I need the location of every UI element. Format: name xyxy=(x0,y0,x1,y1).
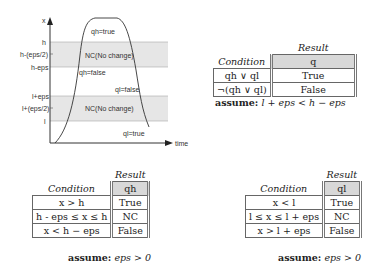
x-axis-label: time xyxy=(175,140,188,147)
q-truth-table: Result Condition q qh ∨ ql True ¬(qh ∨ q… xyxy=(213,41,357,97)
qh-false-label: qh=false xyxy=(79,69,106,77)
q-truth-table-block: Result Condition q qh ∨ ql True ¬(qh ∨ q… xyxy=(213,41,357,97)
condition-cell: x < h − eps xyxy=(33,224,112,238)
upper-band-label: NC(No change) xyxy=(85,52,134,60)
ql-truth-table: Result Condition ql x < l True l ≤ x ≤ l… xyxy=(245,168,362,238)
result-cell: False xyxy=(112,224,149,238)
ql-true-label: ql=true xyxy=(123,130,145,138)
condition-cell: x > h xyxy=(33,196,112,210)
signal-curve xyxy=(55,18,149,143)
result-cell: True xyxy=(112,196,149,210)
ql-truth-table-block: Result Condition ql x < l True l ≤ x ≤ l… xyxy=(245,168,362,238)
result-title: Result xyxy=(112,168,149,182)
assume-expression: eps > 0 xyxy=(114,252,151,263)
result-header: q xyxy=(271,55,355,69)
condition-cell: h - eps ≤ x ≤ h xyxy=(33,210,112,224)
result-title: Result xyxy=(271,41,355,55)
assume-keyword: assume: xyxy=(215,97,258,108)
result-header: ql xyxy=(324,182,361,196)
condition-cell: ¬(qh ∨ ql) xyxy=(214,83,272,97)
level-h: h xyxy=(42,39,46,46)
result-cell: False xyxy=(271,83,355,97)
level-h-eps: h-eps xyxy=(31,64,49,72)
qh-truth-table-block: Result Condition qh x > h True h - eps ≤… xyxy=(32,168,150,238)
condition-cell: x > l + eps xyxy=(246,224,324,238)
result-cell: NC xyxy=(324,210,361,224)
condition-cell: l ≤ x ≤ l + eps xyxy=(246,210,324,224)
assume-expression: l + eps < h − eps xyxy=(261,97,345,108)
condition-cell: qh ∨ ql xyxy=(214,69,272,83)
x-axis-arrow-icon xyxy=(165,140,173,146)
ql-false-label: ql=false xyxy=(115,86,139,94)
result-cell: False xyxy=(324,224,361,238)
ql-assumption: assume: eps > 0 xyxy=(278,252,361,263)
y-axis-label: x xyxy=(42,17,46,24)
q-assumption: assume: l + eps < h − eps xyxy=(215,97,346,108)
level-l-half-eps: l+(eps/2) xyxy=(22,105,49,113)
level-h-half-eps: h-(eps/2) xyxy=(20,51,48,59)
y-axis-arrow-icon xyxy=(47,17,53,25)
condition-cell: x < l xyxy=(246,196,324,210)
qh-assumption: assume: eps > 0 xyxy=(68,252,151,263)
condition-header: Condition xyxy=(214,55,272,69)
lower-band-label: NC(No change) xyxy=(85,105,134,113)
qh-truth-table: Result Condition qh x > h True h - eps ≤… xyxy=(32,168,150,238)
assume-expression: eps > 0 xyxy=(324,252,361,263)
result-cell: NC xyxy=(112,210,149,224)
assume-keyword: assume: xyxy=(68,252,111,263)
result-cell: True xyxy=(324,196,361,210)
level-l-eps: l+eps xyxy=(32,93,49,101)
condition-header: Condition xyxy=(246,182,324,196)
result-cell: True xyxy=(271,69,355,83)
assume-keyword: assume: xyxy=(278,252,321,263)
condition-header: Condition xyxy=(33,182,112,196)
level-l: l xyxy=(44,118,46,125)
hysteresis-plot: x time h h-(eps/2) h-eps l+eps l+(eps/2)… xyxy=(0,0,200,150)
result-header: qh xyxy=(112,182,149,196)
result-title: Result xyxy=(324,168,361,182)
qh-true-label: qh=true xyxy=(91,28,115,36)
